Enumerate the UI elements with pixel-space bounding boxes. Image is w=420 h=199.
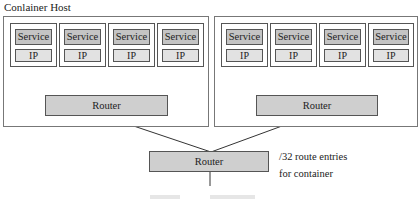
service-box: Service xyxy=(226,29,263,45)
router-top: Router xyxy=(149,151,269,172)
container-4: Service IP xyxy=(157,23,204,67)
router-right: Router xyxy=(256,95,378,116)
route-annotation: /32 route entries for container xyxy=(279,148,347,182)
container-7: Service IP xyxy=(319,23,366,67)
service-box: Service xyxy=(324,29,361,45)
ip-box: IP xyxy=(15,49,52,62)
ip-box: IP xyxy=(324,49,361,62)
ip-box: IP xyxy=(162,49,199,62)
service-box: Service xyxy=(64,29,101,45)
service-box: Service xyxy=(15,29,52,45)
ip-box: IP xyxy=(373,49,409,62)
router-left: Router xyxy=(45,95,168,116)
ip-box: IP xyxy=(275,49,312,62)
ip-box: IP xyxy=(64,49,101,62)
service-box: Service xyxy=(373,29,409,45)
ip-box: IP xyxy=(226,49,263,62)
container-6: Service IP xyxy=(270,23,317,67)
route-annotation-line1: /32 route entries xyxy=(279,148,347,165)
diagram-title: Conlainer Host xyxy=(4,1,71,13)
service-box: Service xyxy=(275,29,312,45)
container-8: Service IP xyxy=(368,23,414,67)
container-3: Service IP xyxy=(108,23,155,67)
figure-caption xyxy=(150,191,280,199)
service-box: Service xyxy=(113,29,150,45)
container-5: Service IP xyxy=(221,23,268,67)
service-box: Service xyxy=(162,29,199,45)
ip-box: IP xyxy=(113,49,150,62)
container-1: Service IP xyxy=(10,23,57,67)
container-2: Service IP xyxy=(59,23,106,67)
route-annotation-line2: for container xyxy=(279,165,347,182)
